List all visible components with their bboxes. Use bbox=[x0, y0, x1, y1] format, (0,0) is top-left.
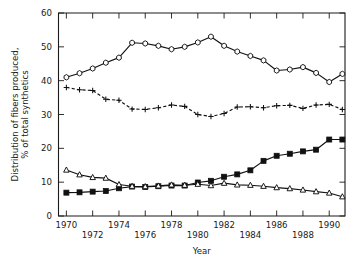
y-tick-label: 60 bbox=[41, 8, 52, 18]
marker-open-hexagon bbox=[340, 71, 345, 76]
marker-open-hexagon bbox=[274, 68, 279, 73]
x-tick-label-upper: 1990 bbox=[318, 220, 340, 230]
marker-filled-square bbox=[340, 137, 345, 142]
marker-plus bbox=[143, 107, 148, 112]
fiber-distribution-line-chart: 0102030405060 19701974197819821986199019… bbox=[0, 0, 357, 266]
series-polyester bbox=[64, 34, 345, 85]
marker-filled-square bbox=[248, 168, 253, 173]
marker-plus bbox=[64, 85, 69, 90]
marker-plus bbox=[169, 102, 174, 107]
marker-open-hexagon bbox=[222, 43, 227, 48]
marker-open-hexagon bbox=[103, 60, 108, 65]
series-nylon bbox=[64, 85, 345, 119]
marker-open-hexagon bbox=[130, 40, 135, 45]
marker-open-hexagon bbox=[209, 34, 214, 39]
marker-filled-square bbox=[222, 174, 227, 179]
marker-open-hexagon bbox=[248, 53, 253, 58]
marker-plus bbox=[195, 112, 200, 117]
x-tick-label-lower: 1980 bbox=[187, 230, 209, 240]
x-axis-title: Year bbox=[192, 246, 212, 256]
marker-plus bbox=[129, 106, 134, 111]
marker-filled-square bbox=[235, 172, 240, 177]
marker-filled-square bbox=[300, 149, 305, 154]
marker-filled-square bbox=[274, 153, 279, 158]
y-tick-label: 10 bbox=[41, 177, 52, 187]
marker-plus bbox=[327, 102, 332, 107]
marker-open-hexagon bbox=[156, 43, 161, 48]
y-axis-title-line1: Distribution of fibers produced, bbox=[10, 48, 20, 182]
marker-plus bbox=[77, 87, 82, 92]
marker-plus bbox=[300, 106, 305, 111]
marker-plus bbox=[248, 104, 253, 109]
marker-open-hexagon bbox=[117, 55, 122, 60]
x-tick-label-upper: 1970 bbox=[55, 220, 77, 230]
marker-open-hexagon bbox=[314, 70, 319, 75]
series-line bbox=[66, 37, 342, 82]
y-tick-label: 30 bbox=[41, 110, 52, 120]
marker-filled-square bbox=[90, 189, 95, 194]
marker-filled-square bbox=[64, 190, 69, 195]
y-tick-label: 0 bbox=[47, 211, 52, 221]
marker-open-hexagon bbox=[90, 66, 95, 71]
x-tick-label-lower: 1976 bbox=[134, 230, 156, 240]
marker-open-hexagon bbox=[182, 44, 187, 49]
marker-open-hexagon bbox=[169, 47, 174, 52]
x-tick-label-lower: 1988 bbox=[292, 230, 314, 240]
x-axis-ticks: 1970197419781982198619901972197619801984… bbox=[55, 13, 340, 240]
x-tick-label-upper: 1986 bbox=[266, 220, 288, 230]
marker-open-hexagon bbox=[195, 40, 200, 45]
marker-open-hexagon bbox=[301, 64, 306, 69]
marker-plus bbox=[340, 107, 345, 112]
x-tick-label-upper: 1982 bbox=[213, 220, 235, 230]
marker-open-hexagon bbox=[287, 67, 292, 72]
marker-plus bbox=[208, 114, 213, 119]
marker-plus bbox=[221, 111, 226, 116]
marker-open-triangle bbox=[221, 180, 227, 185]
marker-open-hexagon bbox=[261, 58, 266, 63]
marker-open-hexagon bbox=[327, 79, 332, 84]
y-tick-label: 20 bbox=[41, 143, 52, 153]
chart-figure: 0102030405060 19701974197819821986199019… bbox=[0, 0, 357, 266]
marker-plus bbox=[287, 103, 292, 108]
marker-open-triangle bbox=[64, 167, 70, 172]
marker-plus bbox=[261, 105, 266, 110]
data-series-group bbox=[64, 34, 346, 199]
marker-open-hexagon bbox=[143, 41, 148, 46]
marker-plus bbox=[116, 98, 121, 103]
marker-filled-square bbox=[103, 188, 108, 193]
x-tick-label-lower: 1972 bbox=[82, 230, 104, 240]
marker-open-hexagon bbox=[77, 71, 82, 76]
marker-open-hexagon bbox=[64, 75, 69, 80]
marker-open-hexagon bbox=[235, 49, 240, 54]
marker-filled-square bbox=[327, 137, 332, 142]
marker-plus bbox=[313, 102, 318, 107]
marker-plus bbox=[156, 105, 161, 110]
x-tick-label-upper: 1978 bbox=[161, 220, 183, 230]
marker-filled-square bbox=[261, 158, 266, 163]
marker-filled-square bbox=[287, 151, 292, 156]
y-tick-label: 40 bbox=[41, 76, 52, 86]
y-axis-title-line2: % of total synthetics bbox=[20, 70, 30, 159]
x-tick-label-lower: 1984 bbox=[239, 230, 261, 240]
marker-plus bbox=[274, 103, 279, 108]
y-tick-label: 50 bbox=[41, 42, 52, 52]
marker-plus bbox=[235, 104, 240, 109]
x-tick-label-upper: 1974 bbox=[108, 220, 130, 230]
marker-filled-square bbox=[314, 147, 319, 152]
marker-filled-square bbox=[77, 190, 82, 195]
marker-plus bbox=[182, 104, 187, 109]
plot-frame bbox=[59, 13, 346, 216]
plot-axes bbox=[59, 13, 346, 216]
series-acrylic bbox=[64, 167, 346, 199]
series-line bbox=[66, 87, 342, 116]
